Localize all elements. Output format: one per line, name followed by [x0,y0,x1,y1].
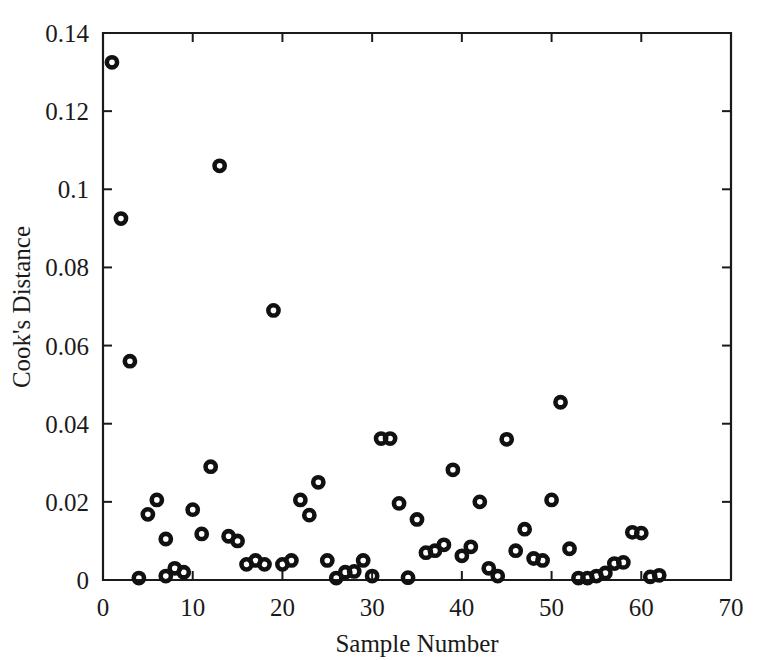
data-point [654,570,664,580]
data-point [125,356,135,366]
y-axis-title: Cook's Distance [8,226,35,388]
data-point [600,568,610,578]
data-point [555,397,565,407]
y-tick-label: 0 [77,567,90,594]
y-tick-label: 0.06 [45,333,89,360]
x-axis-tick-labels: 010203040506070 [97,594,744,621]
data-point [232,536,242,546]
data-point [304,510,314,520]
data-point [188,505,198,515]
data-point [546,495,556,505]
y-tick-label: 0.08 [45,254,89,281]
data-point-group [107,57,664,583]
y-tick-label: 0.14 [45,20,89,47]
data-point [143,509,153,519]
data-point [179,567,189,577]
data-point [268,305,278,315]
data-point [322,555,332,565]
data-point [295,495,305,505]
data-point [197,529,207,539]
x-tick-label: 50 [539,594,564,621]
data-point [385,433,395,443]
data-point [636,528,646,538]
data-point [161,534,171,544]
x-tick-label: 40 [449,594,474,621]
data-point [493,571,503,581]
x-axis-title: Sample Number [335,630,499,657]
y-tick-label: 0.04 [45,411,89,438]
data-point [358,555,368,565]
x-tick-label: 30 [360,594,385,621]
data-point [457,551,467,561]
y-axis-ticks [103,111,731,502]
scatter-plot-figure: 010203040506070 00.020.040.060.080.10.12… [0,0,764,660]
data-point [134,573,144,583]
data-point [403,573,413,583]
data-point [259,559,269,569]
data-point [394,498,404,508]
data-point [564,544,574,554]
data-point [448,465,458,475]
y-axis-tick-labels: 00.020.040.060.080.10.120.14 [45,20,89,594]
data-point [520,524,530,534]
data-point [286,555,296,565]
y-tick-label: 0.1 [58,176,89,203]
data-point [475,497,485,507]
data-point [206,462,216,472]
axes-frame [103,33,731,580]
data-point [439,540,449,550]
data-point [349,566,359,576]
x-tick-label: 60 [629,594,654,621]
data-point [502,434,512,444]
cooks-distance-scatter-chart: 010203040506070 00.020.040.060.080.10.12… [0,0,764,660]
data-point [215,161,225,171]
x-tick-label: 10 [180,594,205,621]
y-tick-label: 0.12 [45,98,89,125]
data-point [618,557,628,567]
y-tick-label: 0.02 [45,489,89,516]
data-point [152,495,162,505]
data-point [116,213,126,223]
x-axis-ticks [193,33,642,580]
data-point [412,514,422,524]
x-tick-label: 70 [719,594,744,621]
plot-border [103,33,731,580]
data-point [538,555,548,565]
data-point [107,57,117,67]
x-tick-label: 0 [97,594,110,621]
data-point [313,477,323,487]
data-point [511,546,521,556]
data-point [466,542,476,552]
x-tick-label: 20 [270,594,295,621]
